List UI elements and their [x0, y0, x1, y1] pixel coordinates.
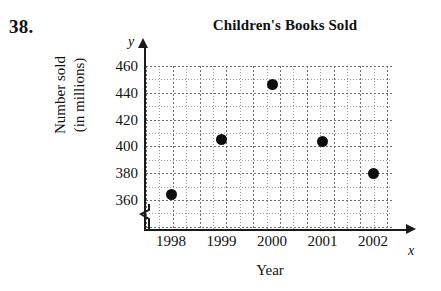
grid-line-horizontal: [146, 160, 392, 161]
y-axis-line: [144, 46, 146, 230]
y-axis-tick-label: 360: [92, 193, 138, 208]
grid-line-horizontal: [146, 93, 392, 94]
x-axis-tick-label: 1998: [143, 233, 199, 249]
y-axis-title-line2: (in millions): [70, 15, 89, 175]
figure-container: 38. Children's Books Sold Number sold (i…: [0, 0, 441, 291]
grid-line-vertical: [267, 66, 268, 230]
grid-line-horizontal: [146, 200, 392, 201]
grid-line-vertical: [334, 66, 335, 230]
x-axis-title: Year: [200, 262, 340, 279]
y-axis-title-line1: Number sold: [51, 15, 70, 175]
y-axis-title: Number sold (in millions): [51, 15, 91, 175]
y-axis-tick-label: 400: [92, 139, 138, 154]
grid-line-vertical: [159, 66, 160, 230]
data-point: [267, 79, 278, 90]
y-axis-tick-label: 420: [92, 113, 138, 128]
grid-line-vertical: [186, 66, 187, 230]
data-point: [317, 136, 328, 147]
grid-line-vertical: [347, 66, 348, 230]
grid-line-vertical: [360, 66, 361, 230]
axis-break-icon: [138, 204, 152, 230]
y-axis-tick-label: 460: [92, 59, 138, 74]
plot-area: [146, 66, 392, 230]
chart-title: Children's Books Sold: [150, 17, 420, 34]
x-axis-tick-label: 2002: [345, 233, 401, 249]
x-axis-tick-labels: 19981999200020012002: [0, 233, 441, 257]
grid-line-vertical: [240, 66, 241, 230]
grid-line-vertical: [226, 66, 227, 230]
grid-line-horizontal: [146, 146, 392, 147]
grid-line-horizontal: [146, 133, 392, 134]
grid-line-horizontal: [146, 213, 392, 214]
grid-line-vertical: [387, 66, 388, 230]
grid-line-horizontal: [146, 173, 392, 174]
y-axis-arrowhead-icon: [138, 38, 148, 48]
grid-line-vertical: [173, 66, 174, 230]
page-top-crop-artifact: [0, 0, 441, 7]
grid-line-vertical: [253, 66, 254, 230]
grid-lines: [146, 66, 392, 230]
grid-line-horizontal: [146, 106, 392, 107]
grid-line-vertical: [200, 66, 201, 230]
y-axis-tick-label: 440: [92, 86, 138, 101]
grid-line-vertical: [213, 66, 214, 230]
x-axis-tick-label: 2001: [295, 233, 351, 249]
x-axis-line: [144, 229, 408, 231]
data-point: [166, 189, 177, 200]
grid-line-vertical: [374, 66, 375, 230]
x-axis-tick-label: 1999: [194, 233, 250, 249]
data-point: [368, 168, 379, 179]
grid-line-horizontal: [146, 227, 392, 228]
grid-line-vertical: [280, 66, 281, 230]
grid-line-vertical: [320, 66, 321, 230]
x-axis-tick-label: 2000: [244, 233, 300, 249]
grid-line-horizontal: [146, 66, 392, 67]
grid-line-vertical: [293, 66, 294, 230]
grid-line-horizontal: [146, 187, 392, 188]
exercise-number: 38.: [9, 16, 34, 38]
grid-line-horizontal: [146, 120, 392, 121]
y-axis-tick-label: 380: [92, 166, 138, 181]
grid-line-vertical: [307, 66, 308, 230]
